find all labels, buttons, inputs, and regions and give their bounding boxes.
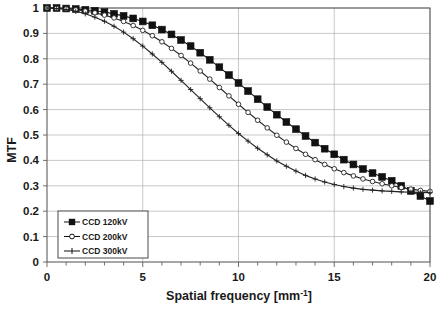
data-point-marker: [187, 43, 194, 50]
y-tick-label: 0.8: [23, 53, 40, 65]
x-tick-label: 5: [140, 271, 147, 283]
data-point-marker: [284, 140, 289, 145]
data-point-marker: [160, 39, 165, 44]
data-point-marker: [254, 96, 261, 103]
data-point-marker: [389, 184, 394, 189]
data-point-marker: [150, 33, 155, 38]
data-point-marker: [303, 152, 308, 157]
legend-label: CCD 200kV: [82, 232, 128, 242]
data-point-marker: [361, 177, 366, 182]
y-tick-label: 0.5: [23, 129, 40, 141]
y-tick-label: 0.2: [23, 205, 39, 217]
chart-figure: 05101520 00.10.20.30.40.50.60.70.80.91 C…: [0, 0, 448, 313]
y-tick-label: 0.6: [23, 104, 39, 116]
data-point-marker: [322, 162, 327, 167]
data-point-marker: [216, 64, 223, 71]
data-point-marker: [427, 198, 434, 205]
data-point-marker: [188, 61, 193, 66]
data-point-marker: [293, 126, 300, 133]
data-point-marker: [178, 37, 185, 44]
data-point-marker: [294, 146, 299, 151]
y-axis-title: MTF: [5, 137, 19, 163]
data-point-marker: [379, 174, 386, 181]
data-point-marker: [399, 185, 404, 190]
data-point-marker: [130, 15, 137, 22]
data-point-marker: [197, 49, 204, 56]
data-point-marker: [283, 119, 290, 126]
data-point-marker: [120, 12, 127, 19]
data-point-marker: [139, 18, 146, 25]
x-tick-label: 20: [424, 271, 437, 283]
data-point-marker: [273, 111, 280, 118]
x-tick-label: 15: [328, 271, 341, 283]
data-point-marker: [217, 85, 222, 90]
data-point-marker: [245, 88, 252, 95]
data-point-marker: [112, 16, 117, 21]
y-tick-label: 1: [33, 2, 40, 14]
y-tick-label: 0.7: [23, 78, 39, 90]
data-point-marker: [332, 166, 337, 171]
data-point-marker: [226, 72, 233, 79]
x-tick-label: 10: [232, 271, 245, 283]
data-point-marker: [302, 133, 309, 140]
data-point-marker: [264, 104, 271, 111]
y-tick-label: 0.1: [23, 231, 40, 243]
x-axis-title-base: Spatial frequency [mm: [166, 289, 300, 303]
legend-label: CCD 300kV: [82, 246, 128, 256]
x-axis-title-tail: ]: [308, 289, 312, 303]
data-point-marker: [380, 181, 385, 186]
y-tick-label: 0: [33, 256, 39, 268]
data-point-marker: [206, 56, 213, 63]
y-tick-label: 0.9: [23, 27, 39, 39]
mtf-line-chart: 05101520 00.10.20.30.40.50.60.70.80.91 C…: [0, 0, 448, 313]
x-tick-label: 0: [44, 271, 50, 283]
data-point-marker: [131, 23, 136, 28]
y-tick-label: 0.3: [23, 180, 39, 192]
legend-label: CCD 120kV: [82, 217, 128, 227]
data-point-marker: [360, 166, 367, 173]
data-point-marker: [121, 19, 126, 24]
chart-legend: CCD 120kVCCD 200kVCCD 300kV: [58, 211, 148, 258]
data-point-marker: [207, 77, 212, 82]
data-point-marker: [140, 28, 145, 33]
data-point-marker: [198, 69, 203, 74]
data-point-marker: [168, 31, 175, 38]
data-point-marker: [102, 13, 107, 18]
x-axis-title: Spatial frequency [mm-1]: [166, 288, 312, 303]
data-point-marker: [351, 174, 356, 179]
legend-marker: [70, 234, 75, 239]
data-point-marker: [179, 53, 184, 58]
data-point-marker: [321, 145, 328, 152]
data-point-marker: [255, 118, 260, 123]
data-point-marker: [159, 26, 166, 33]
data-point-marker: [235, 80, 242, 87]
data-point-marker: [312, 139, 319, 146]
data-point-marker: [369, 170, 376, 177]
data-point-marker: [93, 11, 98, 16]
data-point-marker: [342, 170, 347, 175]
data-point-marker: [227, 94, 232, 99]
data-point-marker: [370, 179, 375, 184]
data-point-marker: [331, 151, 338, 158]
data-point-marker: [275, 133, 280, 138]
y-tick-labels: 00.10.20.30.40.50.60.70.80.91: [23, 2, 40, 268]
legend-marker: [69, 219, 75, 225]
data-point-marker: [236, 102, 241, 107]
data-point-marker: [169, 46, 174, 51]
data-point-marker: [149, 22, 156, 29]
data-point-marker: [313, 157, 318, 162]
data-point-marker: [340, 156, 347, 163]
x-tick-labels: 05101520: [44, 271, 437, 283]
data-point-marker: [350, 161, 357, 168]
data-point-marker: [246, 110, 251, 115]
data-point-marker: [265, 126, 270, 131]
y-tick-label: 0.4: [23, 154, 40, 166]
